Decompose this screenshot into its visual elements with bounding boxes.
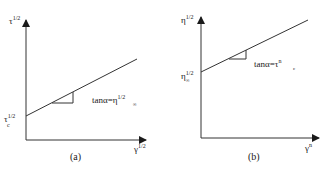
panel-a-slope-label: tanα=η1/2 ∞ [92, 94, 125, 105]
panel-b-y-axis-label: η1/2 [181, 14, 193, 25]
panel-b-intercept-label: η1/2 ∞ [181, 70, 193, 81]
panel-a-intercept-label: τ1/2 c [4, 113, 15, 124]
panel-b-x-axis-label: γn [305, 142, 312, 153]
panel-b-plot [201, 17, 319, 138]
panel-b-slope-label: tanα=τn c [254, 58, 281, 69]
diagram-canvas [0, 0, 327, 179]
panel-a-caption: (a) [70, 152, 81, 162]
panel-b-caption: (b) [248, 152, 260, 162]
panel-a-y-axis-label: τ1/2 [9, 15, 20, 26]
panel-a-fit-line [26, 59, 137, 116]
panel-a-x-axis-label: γ1/2 [134, 143, 146, 154]
panel-a-plot [26, 20, 146, 140]
